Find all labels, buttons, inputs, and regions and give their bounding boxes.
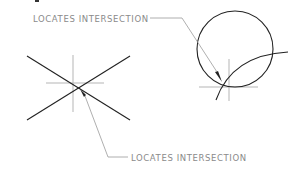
circle (197, 11, 273, 87)
intersection-diagram: LOCATES INTERSECTION LOCATES INTERSECTIO… (0, 0, 303, 173)
intersecting-arc (216, 52, 288, 100)
top-leader-line (150, 18, 217, 72)
bottom-label: LOCATES INTERSECTION (131, 153, 247, 163)
crossing-lines-figure (27, 55, 130, 157)
arrow-head-icon (215, 71, 222, 82)
top-label: LOCATES INTERSECTION (33, 14, 149, 24)
corner-mark (35, 0, 39, 2)
circle-arc-figure (150, 11, 288, 101)
